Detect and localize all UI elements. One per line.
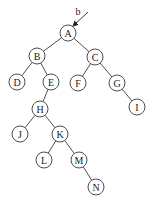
node-label: B — [34, 51, 41, 62]
node-label: H — [36, 104, 43, 115]
edge-e-h — [43, 89, 48, 101]
root-pointer: b — [73, 6, 88, 27]
node-label: F — [75, 78, 81, 89]
node-label: J — [18, 129, 22, 140]
tree-node-a: A — [60, 25, 76, 41]
binary-tree-diagram: b ABCDEFGHIJKLMN — [0, 0, 150, 204]
edge-a-b — [43, 38, 61, 51]
node-label: A — [64, 28, 72, 39]
node-label: M — [75, 155, 84, 166]
tree-node-k: K — [52, 126, 68, 142]
tree-node-f: F — [70, 75, 86, 91]
tree-node-j: J — [12, 126, 28, 142]
tree-node-b: B — [29, 48, 45, 64]
node-label: N — [92, 182, 99, 193]
tree-node-g: G — [109, 75, 125, 91]
node-label: I — [135, 102, 138, 113]
edge-b-e — [41, 63, 47, 75]
edge-b-d — [22, 62, 32, 75]
edge-c-f — [82, 64, 90, 77]
node-label: C — [92, 52, 99, 63]
tree-node-i: I — [129, 99, 145, 115]
edge-k-l — [48, 141, 56, 153]
edge-g-i — [122, 89, 132, 101]
tree-nodes: ABCDEFGHIJKLMN — [9, 25, 145, 195]
edge-h-k — [45, 115, 55, 128]
edge-h-j — [25, 115, 35, 128]
edge-a-c — [74, 38, 89, 51]
tree-node-m: M — [71, 152, 87, 168]
tree-node-n: N — [88, 179, 104, 195]
tree-node-e: E — [43, 74, 59, 90]
node-label: L — [41, 155, 47, 166]
tree-node-h: H — [32, 101, 48, 117]
edge-m-n — [83, 167, 91, 180]
pointer-label: b — [76, 6, 81, 17]
tree-node-l: L — [36, 152, 52, 168]
edge-c-g — [100, 63, 112, 77]
node-label: K — [56, 129, 64, 140]
tree-node-d: D — [9, 74, 25, 90]
edge-k-m — [65, 140, 75, 153]
node-label: E — [48, 77, 54, 88]
node-label: G — [113, 78, 120, 89]
node-label: D — [13, 77, 20, 88]
tree-node-c: C — [87, 49, 103, 65]
